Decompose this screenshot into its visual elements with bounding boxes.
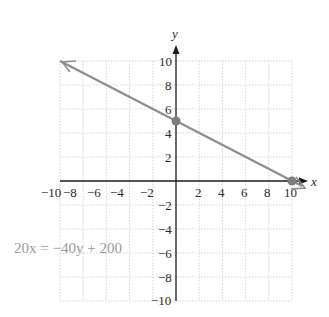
y-tick: −2 <box>158 198 172 213</box>
x-tick: −8 <box>63 185 77 200</box>
x-tick: 8 <box>264 185 271 200</box>
y-tick: −6 <box>158 246 172 261</box>
y-tick: −10 <box>151 293 171 308</box>
x-axis <box>60 178 308 185</box>
y-tick: 4 <box>165 126 172 141</box>
x-tick: −4 <box>110 185 124 200</box>
x-tick: −10 <box>41 185 61 200</box>
y-tick: 10 <box>159 54 172 69</box>
x-tick: 6 <box>241 185 248 200</box>
line-series <box>60 61 305 189</box>
y-intercept-point <box>172 117 181 126</box>
x-tick: 10 <box>284 185 297 200</box>
y-axis <box>173 45 180 301</box>
x-tick: 2 <box>195 185 202 200</box>
x-intercept-point <box>288 177 297 186</box>
x-tick: −2 <box>140 185 154 200</box>
y-tick: −8 <box>158 270 172 285</box>
x-axis-label: x <box>310 174 317 189</box>
equation-label: 20x = −40y + 200 <box>14 240 122 256</box>
y-axis-label: y <box>170 26 178 41</box>
y-axis-arrow-icon <box>173 45 180 54</box>
y-tick: 2 <box>165 150 172 165</box>
x-tick: 4 <box>218 185 225 200</box>
y-tick: 8 <box>165 78 172 93</box>
x-tick: −6 <box>87 185 101 200</box>
y-tick: −4 <box>158 222 172 237</box>
graph: x y −10 −8 −6 −4 −2 2 4 6 8 10 10 8 6 4 … <box>0 0 329 317</box>
